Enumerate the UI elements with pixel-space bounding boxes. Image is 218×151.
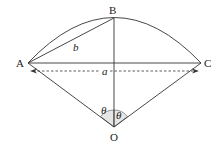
arrow-left-icon: [30, 69, 37, 74]
sector-diagram: B A C O b a θ θ: [0, 0, 218, 151]
arc-ABC: [28, 18, 201, 64]
label-B: B: [109, 4, 116, 16]
label-b: b: [73, 41, 79, 53]
radius-OC: [114, 63, 201, 127]
chord-AB: [28, 18, 114, 63]
label-O: O: [110, 131, 118, 143]
diagram-canvas: B A C O b a θ θ: [0, 0, 218, 151]
label-C: C: [204, 57, 211, 69]
label-A: A: [16, 57, 24, 69]
label-theta-left: θ: [101, 104, 107, 116]
label-theta-right: θ: [116, 109, 122, 121]
label-a: a: [102, 65, 108, 77]
